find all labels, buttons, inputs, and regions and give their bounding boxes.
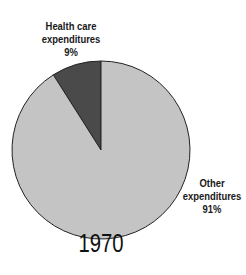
chart-title: 1970: [62, 228, 140, 259]
label-line: Health care: [37, 20, 104, 33]
slice-other: [12, 61, 190, 239]
label-percent: 9%: [37, 46, 104, 59]
label-health-care: Health care expenditures 9%: [37, 20, 104, 59]
label-line: expenditures: [182, 190, 241, 203]
label-line: expenditures: [37, 33, 104, 46]
label-line: Other: [182, 177, 241, 190]
label-percent: 91%: [182, 203, 241, 216]
label-other: Other expenditures 91%: [182, 177, 241, 216]
